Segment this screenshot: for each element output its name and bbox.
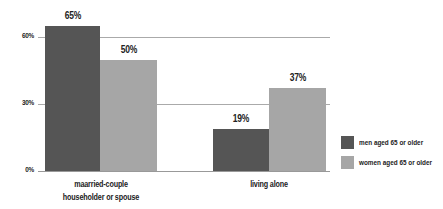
value-label: 19% <box>217 113 265 124</box>
bar-men-living-alone <box>213 129 269 171</box>
bar-women-married-couple <box>100 60 157 171</box>
bar-men-married-couple <box>45 26 100 171</box>
value-label: 65% <box>49 10 97 21</box>
legend-swatch-women <box>341 156 354 169</box>
y-tick-0: 0% <box>15 165 34 174</box>
bar-women-living-alone <box>269 88 326 171</box>
value-label: 50% <box>105 44 153 55</box>
legend-item-men: men aged 65 or older <box>341 135 434 149</box>
legend-item-women: women aged 65 or older <box>341 155 443 169</box>
x-label-living-alone: living alone <box>221 178 317 191</box>
value-label: 37% <box>274 72 322 83</box>
bar-chart: 60% 30% 0% 65% 50% 19% 37% maarried-coup… <box>0 0 443 209</box>
x-axis-baseline <box>38 171 330 172</box>
legend-swatch-men <box>341 136 354 149</box>
y-tick-30: 30% <box>15 98 34 107</box>
y-tick-60: 60% <box>15 31 34 40</box>
x-label-married-couple: maarried-couple householder or spouse <box>53 178 149 204</box>
